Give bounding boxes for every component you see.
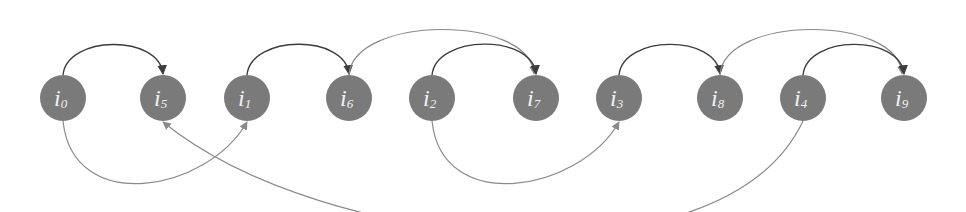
node-label-base: i	[895, 85, 902, 111]
node-i4: i4	[780, 75, 826, 121]
node-i1: i1	[224, 75, 270, 121]
node-i9: i9	[881, 75, 927, 121]
edge-i8-to-i9	[720, 29, 902, 75]
node-label-subscript: 0	[61, 96, 68, 111]
node-label-base: i	[238, 85, 245, 111]
node-label-subscript: 6	[347, 96, 354, 111]
node-label-base: i	[154, 85, 161, 111]
nodes: i0i5i1i6i2i7i3i8i4i9	[40, 75, 927, 121]
node-i7: i7	[513, 75, 559, 121]
edge-i2-to-i7	[432, 44, 536, 75]
edge-i4-to-i9	[803, 44, 904, 75]
edge-i4-to-i5	[163, 121, 803, 212]
node-label-subscript: 4	[801, 96, 808, 111]
edge-i0-to-i5	[63, 44, 163, 75]
node-i0: i0	[40, 75, 86, 121]
node-label-base: i	[794, 85, 801, 111]
node-label-subscript: 3	[616, 96, 624, 111]
node-label-subscript: 2	[430, 96, 437, 111]
node-label-subscript: 9	[902, 96, 909, 111]
edge-i0-to-i1	[63, 121, 247, 184]
node-label-base: i	[423, 85, 430, 111]
edges	[63, 29, 904, 212]
node-label-base: i	[54, 85, 61, 111]
node-label-subscript: 8	[718, 96, 725, 111]
node-label-base: i	[527, 85, 534, 111]
edge-i1-to-i6	[247, 44, 349, 75]
node-i2: i2	[409, 75, 455, 121]
edge-i6-to-i7	[349, 29, 534, 75]
node-label-base: i	[610, 85, 617, 111]
node-label-subscript: 1	[245, 96, 252, 111]
node-label-subscript: 5	[161, 96, 168, 111]
node-i8: i8	[697, 75, 743, 121]
node-i3: i3	[596, 75, 642, 121]
edge-i2-to-i3	[432, 121, 619, 184]
node-label-base: i	[711, 85, 718, 111]
sequence-graph: i0i5i1i6i2i7i3i8i4i9	[0, 0, 966, 212]
node-label-subscript: 7	[534, 96, 541, 111]
node-i5: i5	[140, 75, 186, 121]
node-label-base: i	[340, 85, 347, 111]
node-i6: i6	[326, 75, 372, 121]
edge-i3-to-i8	[619, 44, 720, 75]
